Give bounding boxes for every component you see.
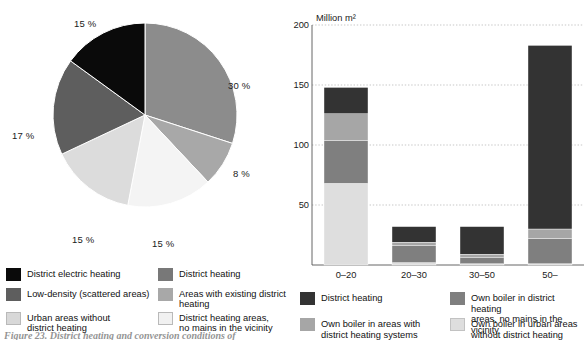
bar-segment (324, 87, 368, 113)
bar-segment (324, 114, 368, 140)
pie-label-areas-with-existing-district-heating: 8 % (233, 168, 250, 179)
x-axis-tick: 0–20 (336, 270, 357, 280)
pie-label-low-density: 17 % (12, 130, 34, 141)
y-axis-tick: 150 (293, 80, 309, 90)
y-axis-tick: 50 (299, 200, 309, 210)
bar-segment (528, 229, 572, 239)
bar-legend-label-0: District heating (321, 292, 383, 304)
pie-label-district-heating: 30 % (228, 80, 250, 91)
bar-segment (460, 227, 504, 255)
bar-segment (460, 254, 504, 258)
pie-chart-panel: 30 % 8 % 15 % 15 % 17 % 15 % District el… (0, 0, 292, 340)
pie-legend-item-district-heating: District heating (158, 268, 292, 281)
bar-legend-label-2: Own boiler in areas with district heatin… (321, 318, 420, 340)
swatch-bar-district-heating (300, 292, 315, 305)
bar-segment (324, 140, 368, 183)
pie-legend-label-3: Areas with existing district heating (179, 288, 286, 310)
bar-segment (392, 227, 436, 243)
bar-legend-item-own-boiler-with-dh-systems: Own boiler in areas with district heatin… (300, 318, 450, 340)
bar-chart-graphic: 50100150200Million m²0–2020–3030–5050– (292, 0, 584, 292)
swatch-district-electric-heating (6, 268, 21, 281)
bar-chart-panel: 50100150200Million m²0–2020–3030–5050– D… (292, 0, 584, 340)
pie-legend-item-district-electric-heating: District electric heating (6, 268, 156, 281)
x-axis-tick: 50– (542, 270, 558, 280)
bar-legend-item-district-heating: District heating (300, 292, 450, 305)
swatch-bar-own-boiler-urban (450, 318, 465, 331)
x-axis-tick: 20–30 (401, 270, 427, 280)
y-axis-tick: 200 (293, 20, 309, 30)
swatch-urban-areas-without-district-heating (6, 312, 21, 325)
swatch-low-density (6, 288, 21, 301)
pie-label-urban-areas-without-dh: 15 % (72, 234, 94, 245)
y-axis-unit-label: Million m² (316, 13, 356, 23)
bar-segment (528, 45, 572, 229)
bar-segment (460, 258, 504, 264)
bar-segment (528, 239, 572, 264)
bar-legend-label-3: Own boiler in urban areas without distri… (471, 318, 577, 340)
x-axis-tick: 30–50 (469, 270, 495, 280)
pie-legend-label-0: District electric heating (27, 268, 121, 279)
swatch-district-heating (158, 268, 173, 281)
bar-segment (392, 242, 436, 246)
figure-caption: Figure 23. District heating and conversi… (4, 330, 304, 340)
pie-legend-item-areas-with-existing-dh: Areas with existing district heating (158, 288, 292, 310)
swatch-district-heating-areas-no-mains (158, 312, 173, 325)
y-axis-tick: 100 (293, 140, 309, 150)
pie-label-district-electric-heating: 15 % (74, 18, 96, 29)
pie-chart-graphic (52, 22, 240, 208)
pie-legend-item-low-density: Low-density (scattered areas) (6, 288, 156, 301)
bar-legend-item-own-boiler-urban-without-dh: Own boiler in urban areas without distri… (450, 318, 584, 340)
swatch-bar-own-boiler-no-mains (450, 292, 465, 305)
pie-legend-label-2: Low-density (scattered areas) (27, 288, 149, 299)
bar-segment (324, 183, 368, 265)
pie-legend-label-1: District heating (179, 268, 241, 279)
bar-segment (392, 246, 436, 263)
bar-segment (392, 263, 436, 265)
swatch-areas-with-existing-district-heating (158, 288, 173, 301)
pie-label-no-mains-in-vicinity: 15 % (152, 238, 174, 249)
